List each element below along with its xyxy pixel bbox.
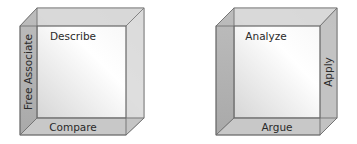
top-face — [20, 8, 144, 26]
label-apply: Apply — [322, 57, 334, 87]
right-face — [126, 8, 144, 135]
label-argue: Argue — [261, 121, 292, 133]
label-compare: Compare — [49, 121, 97, 133]
left-cube: Describe Free Associate Compare — [20, 8, 144, 135]
right-cube: Analyze Apply Argue — [216, 8, 337, 135]
label-analyze: Analyze — [245, 30, 286, 42]
label-describe: Describe — [50, 30, 96, 42]
left-face — [216, 8, 234, 135]
label-free-associate: Free Associate — [22, 34, 34, 110]
